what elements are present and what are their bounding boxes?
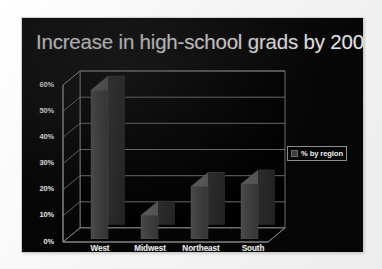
x-tick-label-midwest: Midwest bbox=[126, 244, 174, 252]
y-tick-label-20: 20% bbox=[28, 184, 54, 193]
y-tick-label-0: 0% bbox=[28, 237, 54, 246]
y-tick-label-10: 10% bbox=[28, 210, 54, 219]
x-tick-label-south: South bbox=[229, 244, 277, 252]
bar-chart-3d: 60% 50% 40% 30% 20% 10% 0% West Midwest … bbox=[22, 18, 363, 252]
legend-swatch-icon bbox=[291, 150, 298, 157]
plot-left-wall bbox=[63, 71, 80, 242]
x-tick-label-west: West bbox=[77, 244, 123, 252]
y-tick-label-40: 40% bbox=[28, 132, 54, 141]
y-tick-label-30: 30% bbox=[28, 158, 54, 167]
y-tick-label-60: 60% bbox=[28, 80, 54, 89]
y-tick-label-50: 50% bbox=[28, 106, 54, 115]
legend-item-label: % by region bbox=[301, 149, 343, 158]
x-tick-label-northeast: Northeast bbox=[175, 244, 227, 252]
screenshot-root: Increase in high-school grads by 2008 bbox=[0, 0, 382, 269]
presentation-slide: Increase in high-school grads by 2008 bbox=[22, 18, 363, 252]
bar-west[interactable] bbox=[91, 76, 125, 239]
chart-legend[interactable]: % by region bbox=[287, 146, 347, 161]
chart-canvas bbox=[22, 18, 363, 252]
